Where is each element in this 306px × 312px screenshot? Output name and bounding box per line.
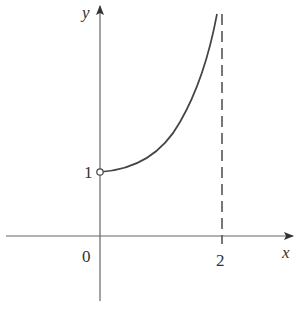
x-tick-label-2: 2 [216, 251, 225, 270]
x-axis-label: x [281, 243, 290, 262]
origin-label: 0 [82, 247, 91, 266]
open-point-marker [97, 169, 103, 175]
chart-canvas: y x 1 0 2 [0, 0, 306, 312]
y-tick-label-1: 1 [84, 163, 93, 182]
function-curve [100, 14, 217, 172]
y-axis-label: y [80, 3, 90, 22]
